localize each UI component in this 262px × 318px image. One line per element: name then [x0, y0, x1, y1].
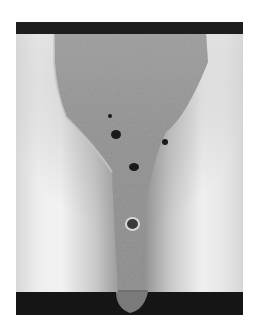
pore-4-ringed	[125, 217, 140, 231]
weld-root	[16, 292, 243, 315]
weld-cross-section-photo	[16, 22, 243, 315]
top-dark-band	[16, 22, 243, 34]
pore-3	[129, 163, 139, 171]
bottom-dark-band	[16, 292, 243, 315]
pore-small	[108, 114, 112, 118]
pore-2	[162, 139, 168, 145]
pore-1	[111, 130, 121, 139]
